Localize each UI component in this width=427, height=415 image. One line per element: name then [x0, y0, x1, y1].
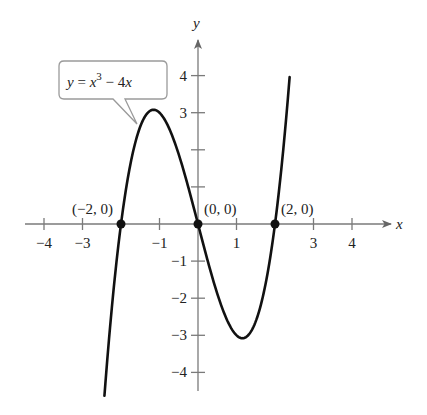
x-axis-tick-labels: −4−3−1134 [36, 235, 356, 251]
intercept-label: (0, 0) [204, 201, 237, 218]
y-tick-label: −3 [171, 327, 187, 343]
y-tick-label: −2 [171, 290, 187, 306]
y-tick-label: −1 [171, 253, 187, 269]
intercept-point [194, 220, 203, 229]
function-curve [104, 77, 289, 396]
intercept-point [117, 220, 126, 229]
y-tick-label: −4 [171, 364, 187, 380]
y-axis-label: y [191, 15, 200, 31]
x-tick-label: −4 [36, 235, 52, 251]
y-tick-label: 4 [180, 68, 188, 84]
intercept-point [271, 220, 280, 229]
intercept-label: (−2, 0) [72, 201, 113, 218]
x-tick-label: 3 [310, 235, 318, 251]
x-tick-label: −1 [152, 235, 168, 251]
x-tick-label: 1 [233, 235, 241, 251]
x-tick-label: 4 [348, 235, 356, 251]
intercept-label: (2, 0) [281, 201, 314, 218]
y-tick-label: 3 [180, 105, 188, 121]
equation-callout: y = x3 − 4x [59, 61, 167, 124]
cubic-function-graph: −4−3−1134 −4−3−2−134 x y (−2, 0)(0, 0)(2… [0, 0, 427, 415]
x-tick-label: −3 [75, 235, 91, 251]
x-axis-label: x [395, 216, 403, 232]
